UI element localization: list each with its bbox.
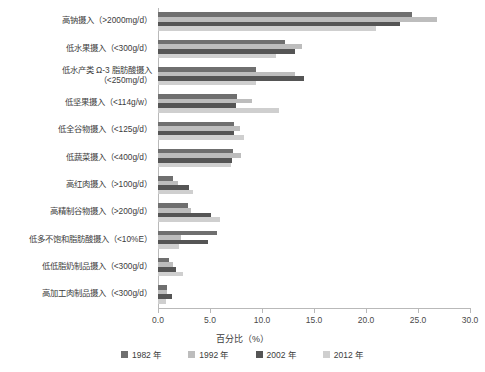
bar [158,81,256,86]
legend-label: 2002 年 [267,348,297,360]
category-label: 低全谷物摄入（<125g/d） [0,124,157,135]
bar [158,217,220,222]
x-tick-label: 20.0 [358,315,375,325]
x-tick-label: 25.0 [410,315,427,325]
chart-legend: 1982 年1992 年2002 年2012 年 [0,348,485,360]
x-tick-label: 10.0 [254,315,271,325]
x-tick-label: 0.0 [152,315,164,325]
x-tick-label: 5.0 [204,315,216,325]
category-label: 低低脂奶制品摄入（<300g/d） [0,261,157,272]
category-label: 低多不饱和脂肪酸摄入（<10%E） [0,234,157,245]
legend-item[interactable]: 1992 年 [188,348,229,360]
x-tick [314,308,315,313]
x-tick-label: 15.0 [306,315,323,325]
x-tick [418,308,419,313]
legend-swatch-icon [256,351,263,358]
legend-swatch-icon [188,351,195,358]
legend-swatch-icon [121,351,128,358]
legend-item[interactable]: 2002 年 [256,348,297,360]
category-label: 低蔬菜摄入（<400g/d） [0,152,157,163]
x-tick [158,308,159,313]
legend-item[interactable]: 2012 年 [323,348,364,360]
x-tick [210,308,211,313]
bar [158,108,279,113]
legend-label: 1982 年 [132,348,162,360]
x-tick-label: 30.0 [462,315,479,325]
bar [158,244,179,249]
x-tick [366,308,367,313]
legend-item[interactable]: 1982 年 [121,348,162,360]
bar [158,135,244,140]
bar [158,54,276,59]
x-axis-title: 百分比（%） [0,332,485,345]
category-label: 高加工肉制品摄入（<300g/d） [0,288,157,299]
bar-chart: 0.05.010.015.020.025.030.0 高钠摄入（>2000mg/… [0,0,485,372]
legend-label: 2012 年 [334,348,364,360]
x-tick [262,308,263,313]
legend-swatch-icon [323,351,330,358]
legend-label: 1992 年 [199,348,229,360]
bar [158,272,183,277]
plot-area [158,8,470,308]
category-label: 高精制谷物摄入（>200g/d） [0,206,157,217]
category-label: 低水产类 Ω-3 脂肪酸摄入 （<250mg/d） [0,65,157,86]
bar [158,26,376,31]
bar [158,190,193,195]
bar [158,163,231,168]
category-label: 高红肉摄入（>100g/d） [0,179,157,190]
bar [158,299,166,304]
category-label: 低坚果摄入（<114g/w） [0,97,157,108]
category-label: 高钠摄入（>2000mg/d） [0,15,157,26]
x-tick [470,308,471,313]
category-label: 低水果摄入（<300g/d） [0,43,157,54]
